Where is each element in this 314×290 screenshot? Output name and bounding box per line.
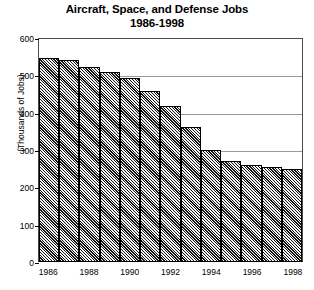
bar xyxy=(262,167,282,261)
chart-figure: Aircraft, Space, and Defense Jobs 1986-1… xyxy=(0,0,314,290)
plot-area: 0100200300400500600 xyxy=(38,38,303,262)
x-axis-ticks-group: 1986198719881989199019911992199319941995… xyxy=(38,266,303,282)
bar xyxy=(100,72,120,261)
bar xyxy=(140,91,160,261)
bar xyxy=(282,169,302,262)
chart-subtitle: 1986-1998 xyxy=(0,16,314,30)
y-tick-label: 400 xyxy=(5,110,39,118)
y-tick-label: 500 xyxy=(5,72,39,80)
bar xyxy=(201,150,221,261)
chart-title: Aircraft, Space, and Defense Jobs xyxy=(0,2,314,16)
bar xyxy=(241,165,261,261)
x-tick-label: 1998 xyxy=(283,266,303,282)
bar xyxy=(59,60,79,261)
x-tick-label: 1996 xyxy=(242,266,262,282)
x-tick-label: 1986 xyxy=(38,266,58,282)
y-tick-label: 0 xyxy=(5,259,39,267)
x-tick-label: 1988 xyxy=(79,266,99,282)
y-tick-label: 100 xyxy=(5,222,39,230)
chart-title-block: Aircraft, Space, and Defense Jobs 1986-1… xyxy=(0,2,314,30)
y-tick-label: 300 xyxy=(5,147,39,155)
bar xyxy=(79,67,99,261)
bar xyxy=(221,161,241,261)
bar xyxy=(120,78,140,261)
x-tick-label: 1990 xyxy=(120,266,140,282)
x-tick-label: 1992 xyxy=(160,266,180,282)
bar xyxy=(160,106,180,261)
x-tick-label: 1994 xyxy=(201,266,221,282)
y-tick-label: 600 xyxy=(5,35,39,43)
bar xyxy=(181,127,201,261)
bars-group xyxy=(39,39,302,261)
y-tick-label: 200 xyxy=(5,184,39,192)
bar xyxy=(39,58,59,262)
